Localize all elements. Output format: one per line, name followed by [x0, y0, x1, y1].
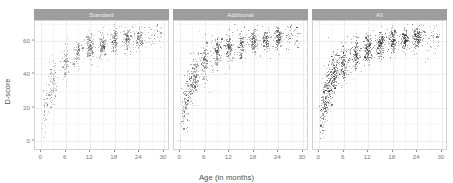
data-point — [328, 64, 329, 65]
data-point — [66, 47, 67, 48]
facet-strip-label: All — [376, 12, 383, 18]
data-point — [350, 54, 351, 55]
data-point — [216, 45, 217, 46]
x-axis-standard: 0612182430 — [34, 150, 169, 166]
data-point — [184, 98, 185, 99]
data-point — [292, 38, 293, 39]
data-point — [384, 44, 385, 45]
data-point — [328, 97, 329, 98]
data-point — [188, 97, 189, 98]
gridline-horizontal — [313, 141, 446, 142]
data-point — [419, 34, 420, 35]
data-point — [141, 26, 142, 27]
x-tick-mark — [138, 150, 139, 152]
data-point — [66, 74, 67, 75]
data-point — [326, 80, 327, 81]
data-point — [336, 65, 337, 66]
data-point — [105, 46, 106, 47]
data-point — [327, 91, 328, 92]
data-point — [142, 45, 143, 46]
data-point — [405, 45, 406, 46]
data-point — [438, 45, 439, 46]
data-point — [394, 32, 395, 33]
data-point — [252, 33, 253, 34]
data-point — [64, 72, 65, 73]
data-point — [378, 56, 379, 57]
gridline-horizontal-minor — [35, 24, 168, 25]
data-point — [327, 120, 328, 121]
data-point — [406, 49, 407, 50]
data-point — [99, 40, 100, 41]
data-point — [357, 62, 358, 63]
y-tick-label: 60 — [23, 37, 30, 44]
data-point — [42, 123, 43, 124]
data-point — [285, 29, 286, 30]
data-point — [361, 71, 362, 72]
data-point — [321, 124, 322, 125]
data-point — [104, 55, 105, 56]
data-point — [339, 62, 340, 63]
data-point — [188, 86, 189, 87]
x-tick-mark — [392, 150, 393, 152]
data-point — [388, 38, 389, 39]
data-point — [160, 47, 161, 48]
data-point — [325, 130, 326, 131]
data-point — [186, 107, 187, 108]
data-point — [321, 100, 322, 101]
data-point — [52, 104, 53, 105]
data-point — [88, 30, 89, 31]
data-point — [142, 43, 143, 44]
data-point — [425, 62, 426, 63]
data-point — [87, 34, 88, 35]
data-point — [196, 81, 197, 82]
data-point — [376, 50, 377, 51]
data-point — [142, 28, 143, 29]
data-point — [295, 29, 296, 30]
data-point — [366, 36, 367, 37]
data-point — [323, 132, 324, 133]
data-point — [326, 96, 327, 97]
data-point — [139, 36, 140, 37]
data-point — [160, 32, 161, 33]
data-point — [279, 43, 280, 44]
data-point — [92, 56, 93, 57]
data-point — [255, 47, 256, 48]
data-point — [328, 109, 329, 110]
data-point — [205, 52, 206, 53]
data-point — [332, 91, 333, 92]
data-point — [340, 71, 341, 72]
data-point — [65, 59, 66, 60]
facet-panel-additional: Additional — [173, 9, 308, 150]
data-point — [228, 52, 229, 53]
data-point — [334, 91, 335, 92]
data-point — [286, 35, 287, 36]
data-point — [368, 46, 369, 47]
data-point — [210, 51, 211, 52]
x-tick-label: 12 — [225, 153, 232, 160]
data-point — [84, 39, 85, 40]
data-point — [199, 58, 200, 59]
data-point — [398, 45, 399, 46]
data-point — [120, 32, 121, 33]
data-point — [323, 87, 324, 88]
data-point — [201, 58, 202, 59]
data-point — [433, 42, 434, 43]
data-point — [369, 50, 370, 51]
data-point — [325, 121, 326, 122]
data-point — [325, 110, 326, 111]
gridline-horizontal-minor — [174, 124, 307, 125]
data-point — [385, 44, 386, 45]
data-point — [254, 49, 255, 50]
data-point — [320, 138, 321, 139]
data-point — [248, 37, 249, 38]
data-point — [63, 61, 64, 62]
data-point — [190, 91, 191, 92]
data-point — [108, 60, 109, 61]
data-point — [98, 31, 99, 32]
data-point — [386, 36, 387, 37]
data-point — [322, 122, 323, 123]
data-point — [67, 44, 68, 45]
data-point — [413, 50, 414, 51]
data-point — [54, 81, 55, 82]
data-point — [419, 29, 420, 30]
